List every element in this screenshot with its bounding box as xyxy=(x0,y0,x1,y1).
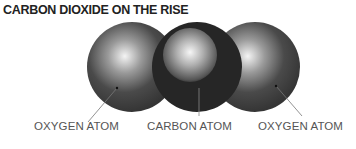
label-oxygen-left: OXYGEN ATOM xyxy=(34,120,119,132)
label-oxygen-right: OXYGEN ATOM xyxy=(258,120,343,132)
carbon-atom-highlight xyxy=(163,28,217,82)
label-carbon: CARBON ATOM xyxy=(147,120,232,132)
